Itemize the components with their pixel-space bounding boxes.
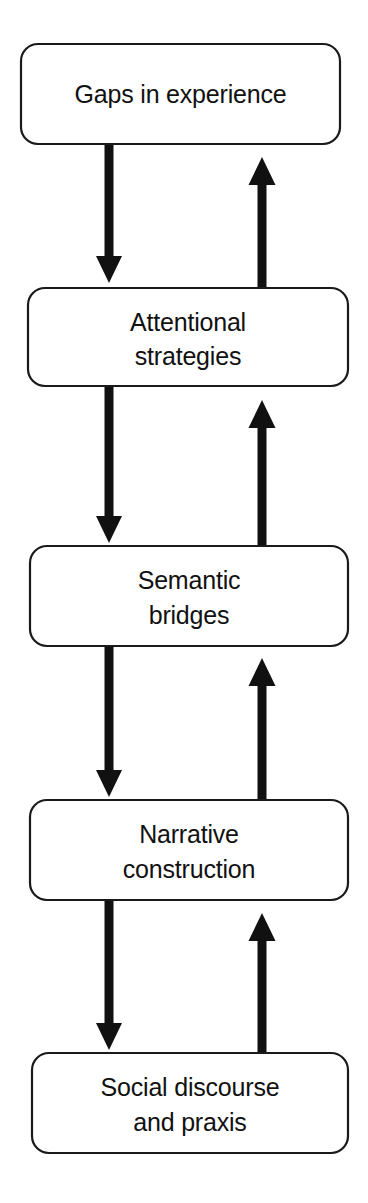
arrow-up-2 xyxy=(249,400,276,546)
node-label-2-line-1: Attentional xyxy=(130,308,246,336)
node-label-2-line-2: strategies xyxy=(135,342,241,370)
edge-up-social-to-narrative xyxy=(249,913,276,1053)
arrow-up-1 xyxy=(249,157,276,288)
node-narrative-construction[interactable]: Narrative construction xyxy=(30,800,348,900)
arrow-down-1 xyxy=(96,144,122,283)
node-label-4-line-1: Narrative xyxy=(139,820,239,848)
node-box-4[interactable] xyxy=(30,800,348,900)
node-attentional-strategies[interactable]: Attentional strategies xyxy=(28,288,348,386)
arrow-down-4 xyxy=(96,900,122,1050)
node-box-5[interactable] xyxy=(32,1053,348,1153)
node-semantic-bridges[interactable]: Semantic bridges xyxy=(30,546,348,646)
node-label-3-line-1: Semantic xyxy=(138,566,241,594)
edge-down-narrative-to-social xyxy=(96,900,122,1050)
arrow-up-3 xyxy=(249,658,276,800)
diagram-canvas: Gaps in experience Attentional strategie… xyxy=(0,0,368,1203)
node-label-5-line-2: and praxis xyxy=(133,1108,246,1136)
node-label-1-line-1: Gaps in experience xyxy=(75,80,287,108)
edge-up-semantic-to-attentional xyxy=(249,400,276,546)
node-box-2[interactable] xyxy=(28,288,348,386)
arrow-down-2 xyxy=(96,386,122,543)
edge-up-narrative-to-semantic xyxy=(249,658,276,800)
arrow-down-3 xyxy=(96,646,122,797)
edge-up-attentional-to-gaps xyxy=(249,157,276,288)
node-label-3-line-2: bridges xyxy=(149,601,230,629)
edge-down-semantic-to-narrative xyxy=(96,646,122,797)
edge-down-gaps-to-attentional xyxy=(96,144,122,283)
edge-down-attentional-to-semantic xyxy=(96,386,122,543)
node-box-3[interactable] xyxy=(30,546,348,646)
arrow-up-4 xyxy=(249,913,276,1053)
node-label-5-line-1: Social discourse xyxy=(101,1073,280,1101)
node-gaps-in-experience[interactable]: Gaps in experience xyxy=(21,44,340,144)
flow-diagram: Gaps in experience Attentional strategie… xyxy=(0,0,368,1203)
node-social-discourse-and-praxis[interactable]: Social discourse and praxis xyxy=(32,1053,348,1153)
node-label-4-line-2: construction xyxy=(123,855,255,883)
